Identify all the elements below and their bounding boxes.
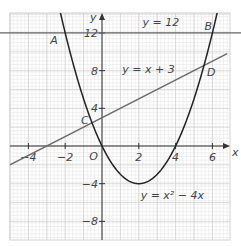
y-tick-label: −4 (82, 178, 98, 191)
annotation-y-equals-12: y = 12 (141, 16, 179, 29)
x-tick-label: 2 (135, 151, 142, 164)
point-label-c: C (81, 114, 89, 127)
origin-label: O (89, 150, 98, 163)
x-tick-label: −2 (57, 151, 73, 164)
y-tick-label: 8 (91, 65, 98, 78)
graph-chart: xy−4−2246−8−44812O ABCDy = 12y = x + 3y … (0, 0, 241, 246)
x-axis-label: x (231, 146, 239, 159)
x-tick-label: 4 (172, 151, 179, 164)
point-label-d: D (207, 66, 215, 79)
point-label-a: A (49, 34, 58, 47)
point-label-b: B (204, 20, 212, 33)
y-axis-label: y (89, 11, 97, 24)
y-tick-label: 4 (91, 102, 98, 115)
annotation-parabola: y = x² − 4x (140, 189, 205, 202)
annotation-y-equals-x-plus-3: y = x + 3 (121, 63, 174, 76)
y-tick-label: −8 (82, 215, 98, 228)
x-tick-label: 6 (209, 151, 216, 164)
grid (10, 13, 230, 240)
